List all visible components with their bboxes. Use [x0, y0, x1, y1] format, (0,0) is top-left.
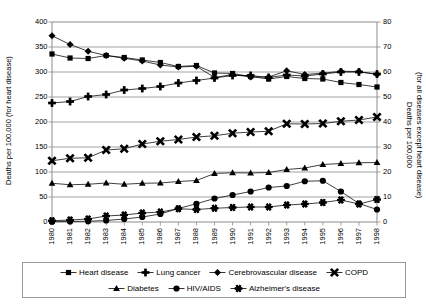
- data-point: [84, 93, 92, 101]
- plus-bar-v: [144, 268, 147, 276]
- legend-marker: [142, 268, 150, 276]
- x-tick-label: 1995: [319, 228, 327, 245]
- data-point: [211, 205, 219, 212]
- legend-label: Alzheimer's disease: [249, 284, 320, 293]
- data-point: [174, 79, 182, 87]
- data-point: [301, 201, 309, 208]
- left-tick-label: 150: [26, 143, 48, 151]
- data-point: [247, 204, 255, 211]
- data-point: [66, 98, 74, 106]
- left-tick-label: 50: [26, 193, 48, 201]
- legend-item: Heart disease: [60, 267, 128, 278]
- x-tick-label: 1982: [84, 228, 92, 245]
- legend-label: COPD: [345, 268, 368, 277]
- legend-row-2: DiabetesHIV/AIDSAlzheimer's disease: [23, 280, 405, 296]
- right-tick-label: 0: [383, 218, 405, 226]
- x-tick-label: 1988: [192, 228, 200, 245]
- legend-marker-icon: [209, 267, 226, 278]
- data-point: [156, 83, 164, 91]
- plus-bar-v: [123, 86, 126, 94]
- data-point: [229, 204, 237, 211]
- data-point: [67, 55, 72, 60]
- plus-bar-v: [105, 91, 108, 99]
- right-tick-label: 40: [383, 118, 405, 126]
- data-point: [302, 178, 308, 184]
- data-point: [283, 202, 291, 209]
- right-tick-label: 50: [383, 93, 405, 101]
- left-tick-label: 100: [26, 168, 48, 176]
- legend-marker-icon: [108, 283, 125, 294]
- x-tick-label: 1992: [265, 228, 273, 245]
- data-point: [48, 99, 56, 107]
- plus-bar-v: [141, 85, 144, 93]
- data-point: [48, 32, 55, 39]
- left-tick-label: 200: [26, 118, 48, 126]
- right-tick-label: 70: [383, 43, 405, 51]
- legend-marker-icon: [137, 267, 154, 278]
- series-heart-disease: [49, 51, 379, 89]
- right-tick-label: 20: [383, 168, 405, 176]
- legend: Heart diseaseLung cancerCerebrovascular …: [22, 262, 406, 298]
- data-point: [211, 195, 217, 201]
- legend-marker: [173, 285, 179, 291]
- data-point: [49, 180, 56, 186]
- series-diabetes: [49, 159, 381, 187]
- x-tick-label: 1984: [120, 228, 128, 245]
- x-tick-label: 1987: [174, 228, 182, 245]
- data-point: [356, 159, 363, 165]
- x-tick-label: 1980: [48, 228, 56, 245]
- x-tick-label: 1990: [229, 228, 237, 245]
- legend-item: Lung cancer: [137, 267, 200, 278]
- data-point: [374, 206, 380, 212]
- right-tick-label: 60: [383, 68, 405, 76]
- legend-label: Cerebrovascular disease: [228, 268, 317, 277]
- data-point: [193, 177, 200, 183]
- data-point: [193, 201, 199, 207]
- legend-label: HIV/AIDS: [187, 284, 221, 293]
- data-point: [337, 197, 345, 204]
- legend-item: Alzheimer's disease: [230, 283, 320, 294]
- legend-label: Lung cancer: [156, 268, 200, 277]
- data-point: [374, 84, 379, 89]
- data-point: [319, 70, 326, 77]
- left-tick-label: 250: [26, 93, 48, 101]
- data-point: [247, 188, 253, 194]
- plus-bar-v: [177, 79, 180, 87]
- plus-bar-v: [69, 98, 72, 106]
- right-tick-label: 10: [383, 193, 405, 201]
- data-point: [284, 183, 290, 189]
- data-point: [338, 188, 344, 194]
- x-tick-label: 1997: [355, 228, 363, 245]
- legend-marker: [66, 269, 71, 274]
- legend-marker-icon: [60, 267, 77, 278]
- legend-marker: [214, 268, 221, 275]
- data-point: [139, 180, 146, 186]
- left-tick-label: 400: [26, 18, 48, 26]
- plus-bar-v: [159, 83, 162, 91]
- data-point: [355, 68, 362, 75]
- data-point: [120, 86, 128, 94]
- left-tick-label: 300: [26, 68, 48, 76]
- legend-item: Cerebrovascular disease: [209, 267, 317, 278]
- x-tick-label: 1996: [337, 228, 345, 245]
- plus-bar-v: [87, 93, 90, 101]
- data-point: [86, 56, 91, 61]
- data-point: [247, 169, 254, 175]
- plus-bar-v: [195, 77, 198, 85]
- data-point: [356, 82, 361, 87]
- legend-marker-icon: [230, 283, 247, 294]
- left-tick-label: 0: [26, 218, 48, 226]
- series-line: [52, 117, 377, 161]
- plus-bar-v: [51, 99, 54, 107]
- legend-marker-icon: [326, 267, 343, 278]
- data-point: [265, 204, 273, 211]
- right-tick-label: 30: [383, 143, 405, 151]
- legend-item: HIV/AIDS: [168, 283, 221, 294]
- x-tick-label: 1994: [301, 228, 309, 245]
- legend-item: Diabetes: [108, 283, 159, 294]
- left-tick-label: 350: [26, 43, 48, 51]
- data-point: [229, 192, 235, 198]
- chart-container: Deaths per 100,000 (for heart disease) D…: [0, 0, 426, 304]
- legend-row-1: Heart diseaseLung cancerCerebrovascular …: [23, 264, 405, 280]
- legend-label: Diabetes: [127, 284, 159, 293]
